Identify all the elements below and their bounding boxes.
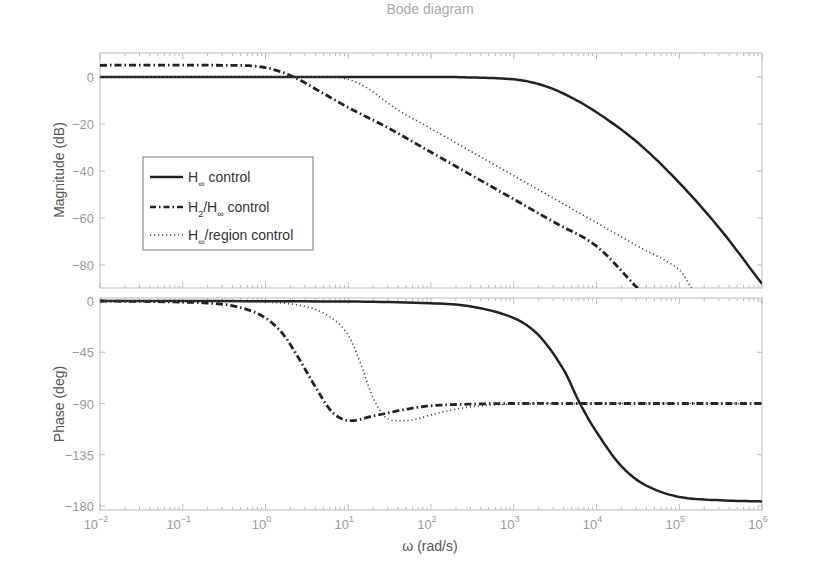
y-tick-label: −80 [72,258,94,273]
series-line [100,301,762,501]
y-tick-label: −90 [72,397,94,412]
y-tick-label: −60 [72,211,94,226]
x-tick-label: 10−1 [166,514,191,532]
y-tick-label: −45 [72,345,94,360]
series-line [100,301,762,421]
x-tick-label: 103 [500,514,519,532]
x-tick-label: 105 [666,514,685,532]
y-tick-label: −180 [65,499,94,514]
y-tick-label: 0 [87,294,94,309]
phase-curves [100,301,762,501]
y-tick-label: −135 [65,448,94,463]
magnitude-y-label: Magnitude (dB) [51,122,67,218]
bode-chart: Bode diagram 0−20−40−60−80 Magnitude (dB… [0,0,815,577]
y-tick-label: 0 [87,70,94,85]
phase-panel: 0−45−90−135−180 Phase (deg) [51,294,762,514]
x-tick-label: 100 [252,514,271,532]
chart-title: Bode diagram [386,1,473,17]
legend: H∞ control H2/H∞ control H∞/region contr… [143,157,313,250]
x-axis-label: ω (rad/s) [402,538,457,554]
y-tick-label: −20 [72,117,94,132]
x-tick-label: 106 [748,514,767,532]
x-tick-label: 102 [417,514,436,532]
y-tick-label: −40 [72,164,94,179]
x-tick-label: 101 [335,514,354,532]
x-tick-label: 104 [583,514,602,532]
x-tick-labels: 10−210−1100101102103104105106 [84,514,768,532]
x-tick-label: 10−2 [84,514,109,532]
phase-y-label: Phase (deg) [51,366,67,442]
